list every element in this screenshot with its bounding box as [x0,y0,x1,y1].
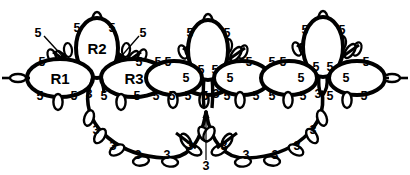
ring-label-r2: R2 [87,40,106,57]
stitch-count-label: 5 [253,89,260,103]
stitch-count-label: 5 [71,89,78,103]
stitch-count-label: 5 [227,71,234,85]
stitch-count-label: 5 [109,21,116,35]
stitch-count-label: 5 [280,55,287,69]
stitch-count-label: 3 [86,87,93,101]
stitch-count-label: 5 [298,71,305,85]
stitch-count-label: 5 [140,26,147,40]
stitch-count-label: 5 [134,89,141,103]
ring-label-r3: R3 [124,70,143,87]
stitch-count-label: 3 [164,148,171,162]
stitch-count-label: 3 [93,123,100,137]
stitch-count-label: 5 [212,63,219,77]
stitch-count-label: 5 [101,89,108,103]
stitch-count-label: 5 [35,26,42,40]
stitch-count-label: 5 [37,89,44,103]
stitch-count-label: 3 [187,139,194,153]
ring-right-3 [329,61,385,95]
ring-label-r1: R1 [50,70,69,87]
stitch-count-label: 3 [294,139,301,153]
tatting-diagram-canvas: R1 R2 R3 5555555535555555555555553555555… [0,0,410,175]
diagram-svg: R1 R2 R3 5555555535555555555555553555555… [0,0,410,175]
stitch-count-label: 3 [110,139,117,153]
stitch-count-label: 5 [302,23,309,37]
stitch-count-label: 5 [269,89,276,103]
stitch-count-label: 5 [246,55,253,69]
stitch-count-label: 5 [165,55,172,69]
stitch-count-label: 3 [213,87,220,101]
stitch-count-label: 3 [135,148,142,162]
stitch-count-label: 5 [361,89,368,103]
stitch-count-label: 3 [315,87,322,101]
stitch-count-label: 5 [153,89,160,103]
stitch-count-label: 5 [224,89,231,103]
stitch-count-label: 5 [155,55,162,69]
stitch-count-label: 5 [185,89,192,103]
stitch-count-label: 3 [203,159,210,173]
stitch-count-label: 5 [327,89,334,103]
stitch-count-label: 5 [343,71,350,85]
stitch-count-label: 5 [183,71,190,85]
stitch-count-label: 5 [339,23,346,37]
stitch-count-label: 5 [313,60,320,74]
stitch-count-label: 5 [187,26,194,40]
stitch-count-label: 3 [221,139,228,153]
stitch-count-label: 5 [202,89,209,103]
stitch-count-label: 5 [39,55,46,69]
stitch-count-label: 5 [363,55,370,69]
stitch-count-label: 3 [243,148,250,162]
stitch-count-label: 5 [74,21,81,35]
stitch-count-label: 5 [300,89,307,103]
stitch-count-label: 5 [269,55,276,69]
stitch-count-label: 5 [224,26,231,40]
stitch-count-label: 3 [272,148,279,162]
stitch-count-label: 3 [310,123,317,137]
stitch-count-label: 5 [198,63,205,77]
stitch-count-label: 5 [327,60,334,74]
stitch-count-label: 5 [169,89,176,103]
stitch-count-label: 5 [136,55,143,69]
